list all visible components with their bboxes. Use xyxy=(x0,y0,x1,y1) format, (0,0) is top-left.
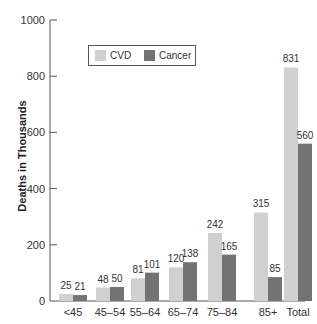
x-tick-label: Total xyxy=(286,306,309,318)
data-label: 48 xyxy=(97,274,109,285)
bar-cvd xyxy=(254,212,268,301)
bar-cvd xyxy=(284,67,298,301)
data-label: 165 xyxy=(221,241,238,252)
bar-cvd xyxy=(96,288,110,301)
bar-cancer xyxy=(222,255,236,301)
y-tick-label: 0 xyxy=(39,295,45,307)
data-label: 50 xyxy=(111,273,123,284)
data-label: 831 xyxy=(283,53,300,64)
x-tick-label: 55–64 xyxy=(130,306,161,318)
data-label: 242 xyxy=(207,219,224,230)
data-label: 315 xyxy=(253,198,270,209)
bar-cancer xyxy=(268,277,282,301)
data-label: 81 xyxy=(132,264,144,275)
x-tick-label: 45–54 xyxy=(95,306,126,318)
data-label: 25 xyxy=(60,280,72,291)
data-label: 560 xyxy=(297,130,314,141)
bar-cancer xyxy=(145,273,159,301)
bar-cvd xyxy=(59,294,73,301)
data-label: 138 xyxy=(182,248,199,259)
bar-cvd xyxy=(131,278,145,301)
y-tick-label: 400 xyxy=(27,183,45,195)
y-tick-label: 200 xyxy=(27,239,45,251)
data-label: 21 xyxy=(74,281,86,292)
bar-chart: 020040060080010002521<45485045–548110155… xyxy=(0,0,317,324)
x-tick-label: 75–84 xyxy=(207,306,238,318)
x-tick-label: <45 xyxy=(64,306,83,318)
bar-cvd xyxy=(169,267,183,301)
bar-cancer xyxy=(298,144,312,301)
data-label: 85 xyxy=(269,263,281,274)
data-label: 101 xyxy=(144,259,161,270)
y-tick-label: 800 xyxy=(27,70,45,82)
x-tick-label: 85+ xyxy=(259,306,278,318)
bar-cancer xyxy=(183,262,197,301)
bar-cancer xyxy=(110,287,124,301)
x-tick-label: 65–74 xyxy=(168,306,199,318)
bar-cancer xyxy=(73,295,87,301)
y-tick-label: 600 xyxy=(27,126,45,138)
y-tick-label: 1000 xyxy=(21,14,45,26)
